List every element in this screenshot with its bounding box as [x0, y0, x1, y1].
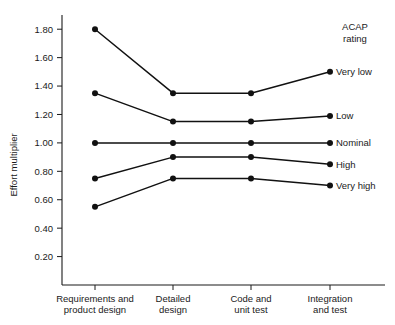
series-end-labels: Very lowLowNominalHighVery high [336, 66, 376, 191]
x-axis-labels: Requirements andproduct designDetailedde… [56, 293, 352, 315]
acap-effort-multiplier-chart: Effort multiplier 0.200.400.600.801.001.… [0, 0, 395, 325]
legend-title-line1: ACAP [342, 21, 368, 32]
y-tick-label: 0.60 [35, 194, 54, 205]
data-point-marker [170, 154, 176, 160]
legend-title: ACAP rating [342, 21, 368, 44]
series-label: Low [336, 110, 354, 121]
data-point-marker [248, 90, 254, 96]
data-point-marker [92, 140, 98, 146]
x-axis-category-label: unit test [234, 304, 268, 315]
y-tick-label: 1.80 [35, 24, 54, 35]
y-tick-label: 1.20 [35, 109, 54, 120]
x-axis-category-label: Code and [230, 293, 271, 304]
x-axis-category-label: Integration [308, 293, 353, 304]
y-axis-ticks: 0.200.400.600.801.001.201.401.601.80 [35, 24, 63, 262]
data-point-marker [327, 113, 333, 119]
y-tick-label: 1.60 [35, 52, 54, 63]
data-point-marker [92, 175, 98, 181]
data-point-marker [170, 140, 176, 146]
data-point-marker [92, 26, 98, 32]
y-tick-label: 1.00 [35, 137, 54, 148]
series-line [95, 157, 330, 178]
series-line [95, 178, 330, 206]
legend-title-line2: rating [343, 33, 367, 44]
data-point-marker [170, 90, 176, 96]
data-point-marker [248, 140, 254, 146]
data-point-marker [327, 140, 333, 146]
x-axis-ticks [95, 285, 330, 290]
data-point-marker [170, 175, 176, 181]
x-axis-category-label: Detailed [156, 293, 191, 304]
series-line [95, 93, 330, 121]
x-axis-category-label: product design [64, 304, 126, 315]
data-point-marker [327, 161, 333, 167]
data-point-marker [327, 69, 333, 75]
data-point-marker [92, 204, 98, 210]
x-axis-category-label: and test [313, 304, 347, 315]
y-tick-label: 0.80 [35, 166, 54, 177]
x-axis-category-label: Requirements and [56, 293, 134, 304]
y-axis-title-text: Effort multiplier [8, 133, 19, 196]
data-point-marker [170, 119, 176, 125]
series-label: High [336, 159, 356, 170]
data-point-marker [327, 183, 333, 189]
data-point-marker [248, 175, 254, 181]
chart-page: Effort multiplier 0.200.400.600.801.001.… [0, 0, 395, 325]
data-point-marker [92, 90, 98, 96]
y-tick-label: 0.20 [35, 251, 54, 262]
series-label: Very low [336, 66, 372, 77]
series-label: Nominal [336, 137, 371, 148]
y-tick-label: 1.40 [35, 80, 54, 91]
series-line [95, 29, 330, 93]
data-point-marker [248, 154, 254, 160]
x-axis-category-label: design [159, 304, 187, 315]
series-label: Very high [336, 180, 376, 191]
series-layer [92, 26, 333, 210]
y-axis-title: Effort multiplier [8, 133, 19, 196]
data-point-marker [248, 119, 254, 125]
y-tick-label: 0.40 [35, 223, 54, 234]
